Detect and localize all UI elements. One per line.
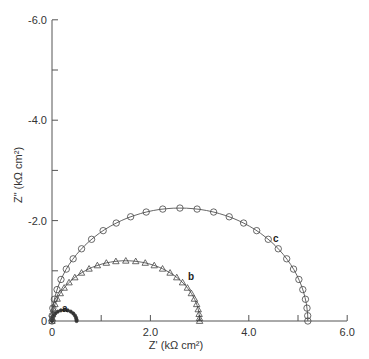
fit-curve-c (52, 208, 308, 321)
y-tick-label: -6.0 (28, 14, 47, 26)
x-tick-label: 2.0 (143, 326, 158, 338)
axes (52, 20, 347, 321)
marker-a (75, 319, 78, 322)
y-tick-label: -4.0 (28, 114, 47, 126)
nyquist-plot: 02.04.06.00-2.0-4.0-6.0 a b c Z' (kΩ cm²… (0, 0, 369, 359)
y-tick-label: 0 (41, 315, 47, 327)
y-tick-label: -2.0 (28, 215, 47, 227)
x-tick-label: 0 (49, 326, 55, 338)
x-tick-label: 6.0 (340, 326, 355, 338)
curve-label-a: a (62, 303, 68, 314)
x-tick-label: 4.0 (241, 326, 256, 338)
curve-label-b: b (188, 271, 194, 282)
x-axis-title: Z' (kΩ cm²) (149, 339, 203, 351)
y-axis-title: Z" (kΩ cm²) (12, 147, 24, 203)
curve-label-c: c (273, 233, 279, 244)
